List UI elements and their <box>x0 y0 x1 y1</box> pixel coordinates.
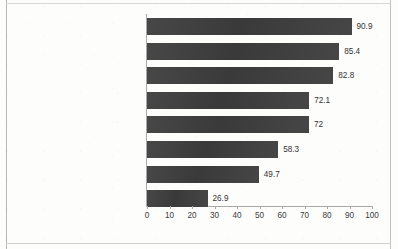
bar-value-label: 49.7 <box>264 166 280 183</box>
bar <box>147 18 352 35</box>
bar-value-label: 90.9 <box>357 18 373 35</box>
x-axis-tick-mark <box>282 206 283 209</box>
x-axis-tick-label: 100 <box>357 210 387 222</box>
bar <box>147 116 309 133</box>
bar <box>147 43 339 60</box>
bar-value-label: 72.1 <box>314 92 330 109</box>
bar <box>147 166 259 183</box>
bar <box>147 190 208 207</box>
x-axis-tick-mark <box>350 206 351 209</box>
x-axis-tick-mark <box>372 206 373 209</box>
x-axis-tick-mark <box>192 206 193 209</box>
chart-page: Email users90.9Search users85.4Digital v… <box>0 0 398 249</box>
bar-value-label: 85.4 <box>344 43 360 60</box>
bar-value-label: 58.3 <box>283 141 299 158</box>
x-axis-tick-mark <box>215 206 216 209</box>
bar-value-label: 72 <box>314 116 323 133</box>
x-axis-tick-mark <box>237 206 238 209</box>
bar-value-label: 82.8 <box>338 67 354 84</box>
x-axis-tick-mark <box>327 206 328 209</box>
bar-value-label: 26.9 <box>213 190 229 207</box>
x-axis-tick-mark <box>260 206 261 209</box>
x-axis-tick-mark <box>305 206 306 209</box>
x-axis-tick-mark <box>147 206 148 209</box>
bar <box>147 92 309 109</box>
bar-chart-plot-area: Email users90.9Search users85.4Digital v… <box>0 0 398 249</box>
bar <box>147 141 278 158</box>
bar <box>147 67 333 84</box>
x-axis-tick-mark <box>170 206 171 209</box>
